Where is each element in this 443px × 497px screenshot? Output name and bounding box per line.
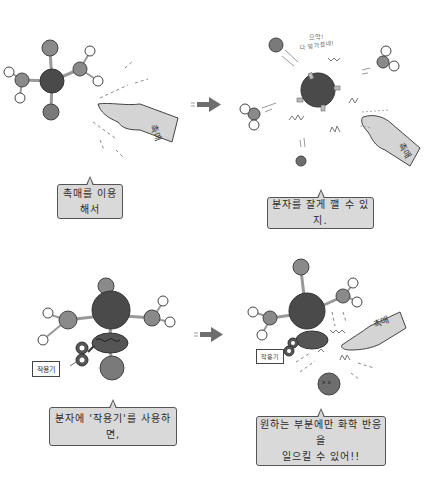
caption-panel-1: 촉매를 이용해서 [57, 184, 123, 219]
arrow-right-icon [191, 97, 221, 112]
caption-text-line-2: 일으킬 수 있어!! [282, 449, 360, 465]
panel-2-exploded-molecule: 으악! 다 망가졌네! [240, 33, 399, 166]
functional-group-tag: 작용기 [32, 361, 60, 377]
svg-text:으악!: 으악! [309, 33, 323, 41]
caption-text-line-1: 원하는 부분에만 화학 반응을 [257, 417, 385, 449]
panel-4-molecule: x x [248, 259, 374, 395]
caption-text: 촉매를 이용해서 [58, 186, 122, 218]
caption-panel-4: 원하는 부분에만 화학 반응을 일으킬 수 있어!! [256, 416, 386, 466]
panel-2-catalyst-hand: 촉매 [360, 110, 420, 166]
panel-1-molecule [4, 40, 103, 120]
caption-text: 분자를 잘게 깰 수 있지. [268, 197, 373, 229]
functional-group-tag: 작용기 [256, 349, 284, 364]
svg-text:다 망가졌네!: 다 망가졌네! [299, 39, 334, 52]
panel-1-catalyst-hand: 촉매 [98, 103, 178, 142]
arrow-right-icon [194, 327, 223, 342]
caption-text: 분자에 '작용기'를 사용하면, [50, 411, 176, 443]
caption-panel-3: 분자에 '작용기'를 사용하면, [49, 407, 177, 446]
svg-text:x x: x x [322, 378, 331, 385]
caption-panel-2: 분자를 잘게 깰 수 있지. [267, 197, 374, 229]
panel-4-catalyst-hand: 촉매 [342, 312, 406, 350]
